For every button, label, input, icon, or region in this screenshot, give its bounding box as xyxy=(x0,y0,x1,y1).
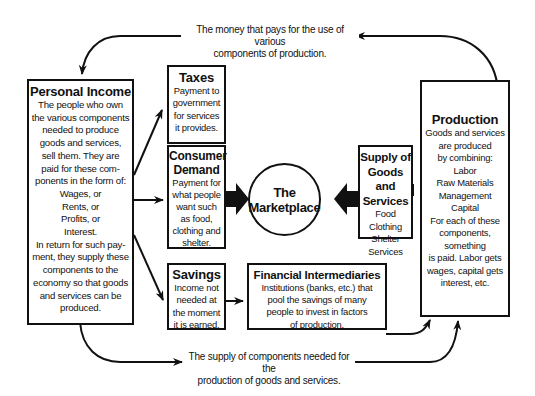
personal-income-title: Personal Income xyxy=(29,84,132,99)
savings-box: Savings Income not needed at the moment … xyxy=(167,263,226,330)
taxes-title: Taxes xyxy=(169,70,224,85)
arrow-income-to-taxes xyxy=(134,110,162,175)
arrow-income-to-savings xyxy=(134,235,163,300)
personal-income-box: Personal Income The people who own the v… xyxy=(27,79,134,325)
financial-intermediaries-title: Financial Intermediaries xyxy=(249,268,385,282)
consumer-demand-body: Payment for what people want such as foo… xyxy=(169,177,224,249)
taxes-box: Taxes Payment to government for services… xyxy=(167,65,226,144)
top-caption: The money that pays for the use of vario… xyxy=(181,24,359,60)
arrow-financial-to-production xyxy=(386,320,430,334)
consumer-demand-box: Consumer Demand Payment for what people … xyxy=(167,145,226,249)
savings-body: Income not needed at the moment it is ea… xyxy=(169,282,224,331)
supply-body: Food Clothing Shelter Services xyxy=(360,208,411,258)
production-body: Goods and services are produced by combi… xyxy=(422,127,508,290)
consumer-demand-title: Consumer Demand xyxy=(169,149,224,177)
production-title: Production xyxy=(422,112,508,127)
financial-intermediaries-body: Institutions (banks, etc.) that pool the… xyxy=(249,282,385,331)
bottom-caption: The supply of components needed for the … xyxy=(183,351,355,387)
taxes-body: Payment to government for services it pr… xyxy=(169,85,224,134)
arrow-supply-to-marketplace xyxy=(334,183,358,215)
production-box: Production Goods and services are produc… xyxy=(420,80,510,317)
supply-title: Supply of Goods and Services xyxy=(360,150,411,208)
supply-box: Supply of Goods and Services Food Clothi… xyxy=(358,145,413,239)
arrow-demand-to-marketplace xyxy=(225,183,249,215)
personal-income-body: The people who own the various component… xyxy=(29,99,132,315)
financial-intermediaries-box: Financial Intermediaries Institutions (b… xyxy=(247,263,387,330)
savings-title: Savings xyxy=(169,267,224,282)
marketplace-circle: The Marketplace xyxy=(248,163,321,236)
